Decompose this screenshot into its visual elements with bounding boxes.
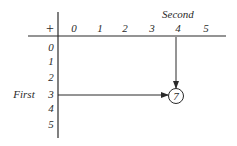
row-header: 4: [48, 102, 54, 114]
column-header: 0: [71, 22, 77, 34]
addition-table-diagram: Second + 0 1 2 3 4 5 0 1 2 3 4 5 First 7: [0, 0, 237, 146]
row-headers: 0 1 2 3 4 5: [47, 41, 54, 130]
column-header: 3: [148, 22, 155, 34]
result-value: 7: [173, 90, 179, 102]
column-header: 1: [97, 22, 103, 34]
column-header: 5: [203, 22, 209, 34]
row-header: 0: [48, 41, 54, 53]
row-header: 5: [48, 118, 54, 130]
column-header: 2: [122, 22, 128, 34]
row-axis-label: First: [12, 88, 35, 100]
column-header: 4: [175, 22, 181, 34]
column-headers: 0 1 2 3 4 5: [71, 22, 209, 34]
row-header: 3: [47, 88, 54, 100]
row-header: 2: [48, 71, 54, 83]
column-axis-label: Second: [162, 8, 194, 20]
row-header: 1: [48, 55, 54, 67]
operator-symbol: +: [46, 21, 54, 36]
